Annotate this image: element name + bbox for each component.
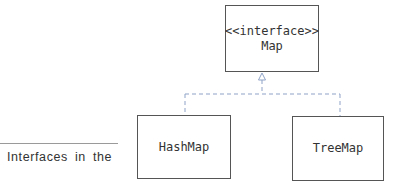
hashmap-class-box: HashMap	[137, 115, 231, 179]
interface-name: Map	[261, 39, 283, 54]
realization-arrow-icon	[259, 73, 266, 80]
class-name-treemap: TreeMap	[313, 141, 364, 156]
class-name-hashmap: HashMap	[159, 140, 210, 155]
treemap-class-box: TreeMap	[292, 116, 384, 181]
interface-stereotype: <<interface>>	[225, 24, 319, 39]
caption-divider	[0, 143, 118, 144]
map-interface-box: <<interface>> Map	[225, 5, 319, 72]
caption-text: Interfaces in the	[7, 150, 112, 164]
